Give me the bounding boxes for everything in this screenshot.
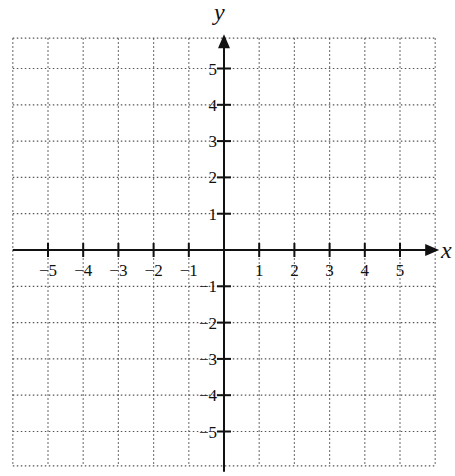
x-tick-label: −3	[109, 261, 127, 280]
x-tick-label: 3	[325, 261, 334, 280]
x-tick-label: −4	[74, 261, 93, 280]
y-tick-label: 4	[209, 96, 218, 115]
x-tick-label: 2	[290, 261, 299, 280]
x-tick-label: 4	[361, 261, 370, 280]
y-tick-label: −2	[199, 314, 217, 333]
x-tick-label: −5	[39, 261, 57, 280]
x-tick-label: 5	[396, 261, 405, 280]
x-tick-label: 1	[255, 261, 264, 280]
y-tick-label: −3	[199, 350, 217, 369]
x-axis-label: x	[440, 237, 452, 263]
y-tick-label: 5	[209, 60, 218, 79]
y-tick-label: −4	[199, 386, 218, 405]
y-tick-label: −5	[199, 423, 217, 442]
y-tick-label: 3	[209, 132, 218, 151]
coordinate-plane: −5−4−3−2−112345 −5−4−3−2−112345 x y	[0, 0, 455, 476]
y-axis-arrow-icon	[218, 34, 230, 48]
y-tick-label: 2	[209, 168, 218, 187]
x-tick-label: −1	[180, 261, 198, 280]
axes	[13, 34, 439, 472]
x-axis-arrow-icon	[425, 244, 439, 256]
x-tick-label: −2	[145, 261, 163, 280]
y-tick-label: 1	[209, 205, 218, 224]
x-axis-ticks: −5−4−3−2−112345	[39, 243, 404, 280]
y-axis-label: y	[212, 0, 225, 25]
y-tick-label: −1	[199, 277, 217, 296]
